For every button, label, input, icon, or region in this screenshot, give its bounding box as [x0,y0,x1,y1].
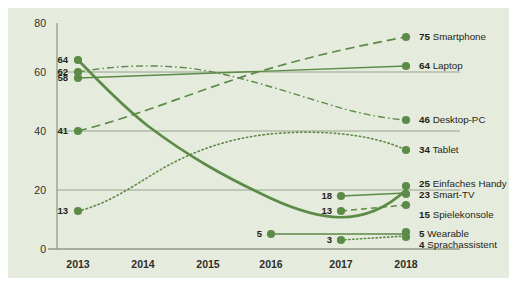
data-label-smartphone-2013: 41 [40,125,68,136]
series-line-smartphone [78,37,406,131]
series-line-desktop-pc [78,66,406,120]
legend-item-sprachassistent: 4 Sprachassistent [419,239,497,251]
series-line-smart-tv [341,193,406,196]
legend-label-wearable: Wearable [427,228,469,239]
data-label-wearable-2016: 5 [234,228,262,239]
data-label-einfaches-handy-2013: 64 [40,54,68,65]
marker-spielekonsole-2018 [402,201,410,209]
y-tick-label-0: 0 [22,243,46,255]
legend-item-tablet: 34 Tablet [419,144,459,156]
legend-value-einfaches-handy: 25 [419,178,430,189]
legend-value-laptop: 64 [419,60,430,71]
marker-wearable-2016 [267,230,275,238]
marker-desktop-pc-2018 [402,116,410,124]
marker-smartphone-2018 [402,33,410,41]
marker-tablet-2018 [402,146,410,154]
legend-label-desktop-pc: Desktop-PC [433,114,486,125]
legend-label-einfaches-handy: Einfaches Handy [433,178,507,189]
legend-item-laptop: 64 Laptop [419,60,463,72]
x-tick-label-2016: 2016 [248,258,294,270]
marker-smart-tv-2017 [337,192,345,200]
x-tick-label-2014: 2014 [120,258,166,270]
marker-tablet-2013 [74,207,82,215]
legend-item-desktop-pc: 46 Desktop-PC [419,114,485,126]
legend-label-laptop: Laptop [433,60,463,71]
legend-label-spielekonsole: Spielekonsole [433,209,494,220]
series-line-tablet [78,132,406,211]
legend-item-spielekonsole: 15 Spielekonsole [419,209,494,221]
marker-einfaches-handy-2013 [74,56,82,64]
legend-item-einfaches-handy: 25 Einfaches Handy [419,178,507,190]
marker-smart-tv-2018 [402,190,410,198]
y-tick-label-20: 20 [22,184,46,196]
marker-sprachassistent-2017 [337,236,345,244]
legend-label-sprachassistent: Sprachassistent [427,239,497,250]
legend-item-smart-tv: 23 Smart-TV [419,189,475,201]
data-label-sprachassistent-2017: 3 [304,234,332,245]
x-tick-label-2018: 2018 [383,258,429,270]
chart-figure: 80 60 40 20 0 2013 2014 2015 2016 2017 2… [8,8,509,278]
marker-sprachassistent-2018 [402,233,410,241]
marker-einfaches-handy-2018 [402,182,410,190]
legend-value-spielekonsole: 15 [419,209,430,220]
data-label-smart-tv-2017: 18 [304,190,332,201]
data-label-spielekonsole-2017: 13 [304,205,332,216]
legend-value-wearable: 5 [419,228,424,239]
x-tick-label-2013: 2013 [55,258,101,270]
legend-value-sprachassistent: 4 [419,239,424,250]
data-label-tablet-2013: 13 [40,205,68,216]
gridlines [57,72,460,190]
x-tick-label-2017: 2017 [318,258,364,270]
legend-value-smartphone: 75 [419,31,430,42]
series-line-sprachassistent [341,236,406,240]
legend-value-tablet: 34 [419,144,430,155]
legend-value-desktop-pc: 46 [419,114,430,125]
legend-label-smart-tv: Smart-TV [433,189,475,200]
legend-label-tablet: Tablet [432,144,458,155]
legend-item-smartphone: 75 Smartphone [419,31,486,43]
legend-item-wearable: 5 Wearable [419,228,469,240]
legend-label-smartphone: Smartphone [433,31,486,42]
data-label-laptop-2013: 58 [40,72,68,83]
marker-laptop-2013 [74,74,82,82]
marker-smartphone-2013 [74,127,82,135]
marker-spielekonsole-2017 [337,207,345,215]
x-tick-label-2015: 2015 [185,258,231,270]
y-tick-label-80: 80 [22,17,46,29]
marker-laptop-2018 [402,62,410,70]
legend-value-smart-tv: 23 [419,189,430,200]
